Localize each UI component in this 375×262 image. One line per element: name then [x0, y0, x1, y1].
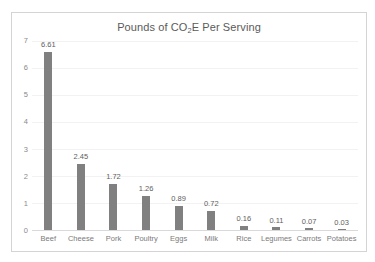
- y-axis-tick-label: 2: [24, 173, 28, 181]
- bar-slot: 6.61: [32, 41, 65, 230]
- chart-title-subscript: 2: [187, 26, 191, 35]
- bar-value-label: 1.72: [97, 173, 130, 181]
- x-axis-tick-label: Beef: [32, 235, 65, 243]
- y-axis-tick-label: 1: [24, 200, 28, 208]
- x-axis-tick-label: Cheese: [65, 235, 98, 243]
- bar-value-label: 0.03: [325, 219, 358, 227]
- bar-series: 6.612.451.721.260.890.720.160.110.070.03: [32, 41, 358, 230]
- chart-container: Pounds of CO2E Per Serving 76543210 6.61…: [11, 12, 367, 252]
- bar-slot: 0.16: [228, 41, 261, 230]
- bar-slot: 1.72: [97, 41, 130, 230]
- y-axis-tick-label: 5: [24, 92, 28, 100]
- y-axis-tick-label: 0: [24, 227, 28, 235]
- y-axis-tick-label: 3: [24, 146, 28, 154]
- bar-value-label: 0.07: [293, 218, 326, 226]
- x-axis-tick-label: Legumes: [260, 235, 293, 243]
- x-axis-tick-label: Carrots: [293, 235, 326, 243]
- x-axis-tick-label: Eggs: [162, 235, 195, 243]
- bar[interactable]: [77, 164, 85, 230]
- bar[interactable]: [109, 184, 117, 230]
- x-axis-tick-label: Rice: [228, 235, 261, 243]
- bar-slot: 0.11: [260, 41, 293, 230]
- y-axis-tick-label: 7: [24, 37, 28, 45]
- x-axis-tick-label: Pork: [97, 235, 130, 243]
- bar[interactable]: [240, 226, 248, 230]
- bar-slot: 0.89: [162, 41, 195, 230]
- bar-value-label: 0.89: [162, 195, 195, 203]
- chart-title-prefix: Pounds of CO: [117, 21, 187, 33]
- bar-slot: 0.72: [195, 41, 228, 230]
- bar[interactable]: [305, 228, 313, 230]
- chart-title: Pounds of CO2E Per Serving: [12, 21, 366, 33]
- bar-slot: 0.03: [325, 41, 358, 230]
- bar-value-label: 0.11: [260, 217, 293, 225]
- y-axis-tick-label: 4: [24, 119, 28, 127]
- y-axis-tick-label: 6: [24, 64, 28, 72]
- bar-value-label: 2.45: [65, 153, 98, 161]
- x-axis-tick-label: Poultry: [130, 235, 163, 243]
- bar[interactable]: [272, 227, 280, 230]
- plot-area: 76543210 6.612.451.721.260.890.720.160.1…: [32, 41, 358, 230]
- bar[interactable]: [142, 196, 150, 230]
- bar-value-label: 0.72: [195, 200, 228, 208]
- bar-value-label: 6.61: [32, 41, 65, 49]
- bar-value-label: 1.26: [130, 185, 163, 193]
- chart-title-suffix: E Per Serving: [192, 21, 261, 33]
- bar-slot: 0.07: [293, 41, 326, 230]
- bar-value-label: 0.16: [228, 215, 261, 223]
- bar-slot: 1.26: [130, 41, 163, 230]
- bar[interactable]: [175, 206, 183, 230]
- x-axis-tick-label: Potatoes: [325, 235, 358, 243]
- gridline: 0: [32, 230, 358, 231]
- bar[interactable]: [207, 211, 215, 230]
- x-axis-labels: BeefCheesePorkPoultryEggsMilkRiceLegumes…: [32, 235, 358, 243]
- bar-slot: 2.45: [65, 41, 98, 230]
- bar[interactable]: [338, 229, 346, 230]
- bar[interactable]: [44, 52, 52, 230]
- x-axis-tick-label: Milk: [195, 235, 228, 243]
